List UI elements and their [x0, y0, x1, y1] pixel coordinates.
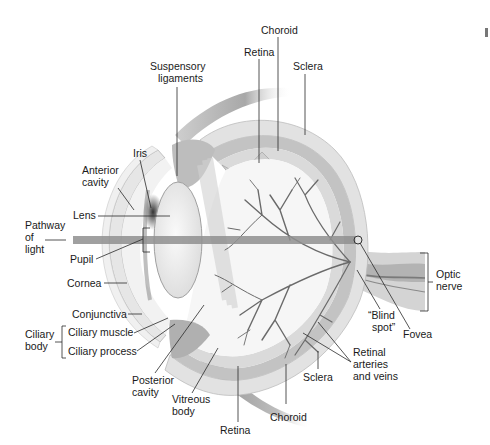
label-anterior-cavity: Anteriorcavity — [82, 164, 119, 188]
label-retina-bottom: Retina — [220, 424, 251, 436]
label-choroid-top: Choroid — [261, 24, 298, 36]
label-ciliary-muscle: Ciliary muscle — [68, 326, 134, 338]
label-ciliary-process: Ciliary process — [68, 345, 137, 357]
label-cornea: Cornea — [67, 277, 102, 289]
ciliary-body-bracket — [55, 326, 66, 358]
label-sclera-top: Sclera — [293, 60, 323, 72]
light-pathway — [73, 236, 355, 244]
eye-anatomy-diagram: Choroid Retina Sclera Suspensoryligament… — [0, 0, 490, 445]
label-ciliary-body: Ciliarybody — [25, 328, 55, 352]
label-vitreous-body: Vitreousbody — [172, 393, 210, 417]
label-suspensory-ligaments: Suspensoryligaments — [150, 60, 206, 84]
label-retinal-arteries-veins: Retinalarteriesand veins — [353, 346, 398, 382]
label-retina-top: Retina — [244, 46, 275, 58]
label-pupil: Pupil — [70, 253, 93, 265]
label-blind-spot: “Blindspot” — [368, 309, 396, 333]
label-posterior-cavity: Posteriorcavity — [132, 374, 175, 398]
label-optic-nerve: Opticnerve — [436, 268, 462, 292]
label-lens: Lens — [73, 209, 96, 221]
label-fovea: Fovea — [403, 328, 432, 340]
label-sclera-bottom: Sclera — [303, 371, 333, 383]
label-choroid-bottom: Choroid — [270, 411, 307, 423]
label-iris: Iris — [133, 147, 147, 159]
label-conjunctiva: Conjunctiva — [72, 308, 127, 320]
page-marker — [485, 28, 488, 37]
label-pathway-of-light: Pathwayoflight — [25, 219, 66, 255]
